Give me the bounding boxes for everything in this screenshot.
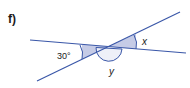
angle-label-x: x: [141, 36, 148, 47]
angle-arc-y: [96, 48, 122, 62]
angle-label-y: y: [108, 66, 115, 77]
intersecting-lines-diagram: 30° x y: [0, 0, 190, 88]
angle-label-30: 30°: [57, 51, 71, 61]
